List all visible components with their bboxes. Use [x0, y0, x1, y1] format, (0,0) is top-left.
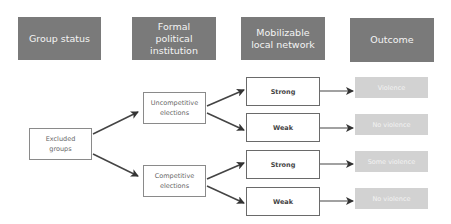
node-excluded-groups: Excluded groups	[29, 128, 92, 160]
node-weak-competitive: Weak	[246, 187, 320, 216]
outcome-no-violence-1: No violence	[355, 114, 428, 135]
outcome-some-violence: Some violence	[355, 151, 428, 172]
node-strong-uncompetitive: Strong	[246, 77, 320, 106]
header-group-status: Group status	[18, 17, 101, 60]
node-weak-uncompetitive: Weak	[246, 113, 320, 142]
header-network: Mobilizable local network	[241, 17, 325, 60]
node-uncompetitive-elections: Uncompetitive elections	[143, 92, 206, 124]
header-institution: Formal political institution	[132, 17, 216, 60]
outcome-no-violence-2: No violence	[355, 188, 428, 209]
node-strong-competitive: Strong	[246, 150, 320, 179]
node-competitive-elections: Competitive elections	[143, 165, 206, 197]
outcome-violence: Violence	[355, 77, 428, 98]
header-outcome: Outcome	[350, 18, 434, 62]
